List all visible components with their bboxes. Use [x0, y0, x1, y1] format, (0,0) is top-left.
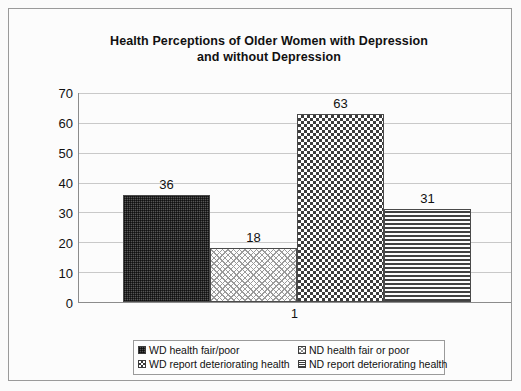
- chart-page: Health Perceptions of Older Women with D…: [0, 0, 521, 391]
- figure-frame: Health Perceptions of Older Women with D…: [8, 8, 512, 381]
- legend-swatch-icon-1: [138, 346, 146, 354]
- legend-label-3: WD report deteriorating health: [149, 358, 290, 370]
- bar-wd-report-deteriorating-health[interactable]: 63: [297, 114, 384, 302]
- bar-slot-4: 31: [384, 93, 471, 302]
- y-tick-20: 20: [33, 235, 73, 250]
- bar-label-2: 18: [211, 230, 296, 245]
- chart-title-line-2: and without Depression: [69, 49, 469, 65]
- chart-title: Health Perceptions of Older Women with D…: [69, 33, 469, 65]
- legend-item-wd-health-fair-poor[interactable]: WD health fair/poor: [138, 344, 298, 356]
- y-tick-0: 0: [33, 296, 73, 311]
- bar-label-3: 63: [298, 96, 383, 111]
- bar-wd-health-fair-poor[interactable]: 36: [123, 195, 210, 302]
- bar-group: 36 18 63 31: [79, 93, 511, 302]
- legend-item-nd-health-fair-or-poor[interactable]: ND health fair or poor: [298, 344, 450, 356]
- chart-title-line-1: Health Perceptions of Older Women with D…: [69, 33, 469, 49]
- y-tick-30: 30: [33, 205, 73, 220]
- y-tick-60: 60: [33, 115, 73, 130]
- chart-legend: WD health fair/poor ND health fair or po…: [133, 340, 445, 375]
- legend-label-4: ND report deteriorating health: [309, 358, 447, 370]
- legend-item-wd-report-deteriorating-health[interactable]: WD report deteriorating health: [138, 358, 298, 370]
- y-axis-tick-labels: 70 60 50 40 30 20 10 0: [31, 93, 73, 303]
- bar-slot-3: 63: [297, 93, 384, 302]
- legend-swatch-icon-2: [298, 346, 306, 354]
- legend-label-1: WD health fair/poor: [149, 344, 239, 356]
- bar-nd-health-fair-or-poor[interactable]: 18: [210, 248, 297, 302]
- y-tick-10: 10: [33, 265, 73, 280]
- bar-slot-1: 36: [123, 93, 210, 302]
- bar-label-4: 31: [385, 191, 470, 206]
- y-tick-50: 50: [33, 145, 73, 160]
- y-tick-40: 40: [33, 175, 73, 190]
- plot-area: 36 18 63 31: [78, 93, 511, 303]
- y-tick-70: 70: [33, 86, 73, 101]
- legend-label-2: ND health fair or poor: [309, 344, 409, 356]
- legend-swatch-icon-3: [138, 360, 146, 368]
- bar-slot-2: 18: [210, 93, 297, 302]
- bar-nd-report-deteriorating-health[interactable]: 31: [384, 209, 471, 302]
- bar-label-1: 36: [124, 177, 209, 192]
- legend-swatch-icon-4: [298, 360, 306, 368]
- legend-item-nd-report-deteriorating-health[interactable]: ND report deteriorating health: [298, 358, 450, 370]
- x-axis-category-label: 1: [78, 307, 511, 321]
